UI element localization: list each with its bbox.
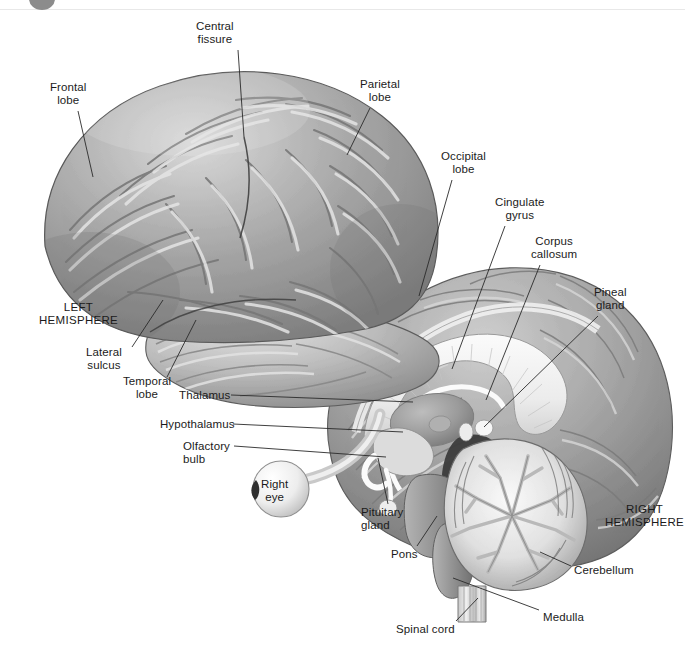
label-right-eye: Right eye: [261, 478, 288, 503]
label-pituitary-gland: Pituitary gland: [361, 506, 403, 531]
label-lateral-sulcus: Lateral sulcus: [86, 346, 122, 371]
label-olfactory-bulb: Olfactory bulb: [183, 440, 230, 465]
label-parietal-lobe: Parietal lobe: [360, 78, 400, 103]
label-pineal-gland: Pineal gland: [594, 286, 627, 311]
label-occipital-lobe: Occipital lobe: [441, 150, 486, 175]
label-central-fissure: Central fissure: [196, 20, 234, 45]
label-frontal-lobe: Frontal lobe: [50, 81, 87, 106]
top-edge-line: [0, 9, 685, 10]
label-left-hemisphere: LEFT HEMISPHERE: [39, 301, 118, 326]
brain-diagram-illustration: [0, 0, 685, 653]
label-pons: Pons: [391, 548, 418, 561]
brain-anatomy-figure: Central fissureFrontal lobeParietal lobe…: [0, 0, 685, 653]
label-temporal-lobe: Temporal lobe: [123, 375, 171, 400]
label-corpus-callosum: Corpus callosum: [531, 235, 577, 260]
label-hypothalamus: Hypothalamus: [160, 418, 235, 431]
label-spinal-cord: Spinal cord: [396, 623, 455, 636]
label-medulla: Medulla: [543, 611, 584, 624]
label-right-hemisphere: RIGHT HEMISPHERE: [605, 503, 684, 528]
label-cerebellum: Cerebellum: [574, 564, 634, 577]
superior-colliculus: [459, 423, 473, 441]
label-thalamus: Thalamus: [179, 389, 230, 402]
pineal-gland-shape: [475, 420, 493, 436]
label-cingulate-gyrus: Cingulate gyrus: [495, 196, 545, 221]
